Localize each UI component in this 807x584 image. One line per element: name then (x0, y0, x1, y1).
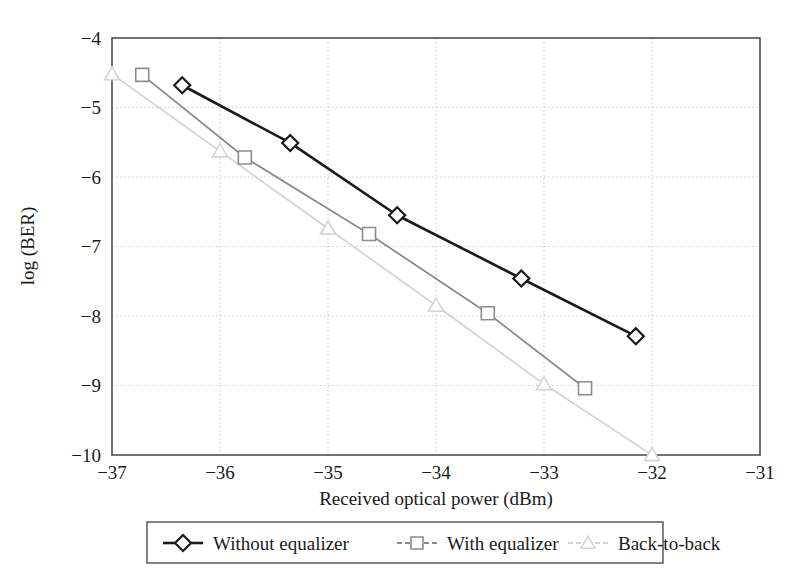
data-point-marker (136, 68, 149, 81)
y-axis-title: log (BER) (17, 207, 39, 286)
y-tick-label: −10 (71, 445, 101, 466)
chart-canvas: −37−36−35−34−33−32−31 −10−9−8−7−6−5−4 Re… (0, 0, 807, 584)
legend: Without equalizerWith equalizerBack-to-b… (147, 522, 721, 563)
y-tick-label: −9 (81, 375, 101, 396)
data-point-marker (363, 227, 376, 240)
x-tick-label: −35 (313, 462, 343, 483)
y-tick-labels: −10−9−8−7−6−5−4 (71, 28, 101, 466)
legend-label: Back-to-back (618, 533, 721, 554)
legend-label: With equalizer (447, 533, 559, 554)
x-axis-title: Received optical power (dBm) (319, 488, 553, 510)
y-tick-label: −7 (81, 236, 101, 257)
data-point-marker (579, 382, 592, 395)
legend-label: Without equalizer (213, 533, 350, 554)
data-point-marker (481, 307, 494, 320)
y-tick-label: −6 (81, 167, 101, 188)
y-tick-label: −5 (81, 97, 101, 118)
x-tick-label: −34 (421, 462, 451, 483)
x-tick-label: −37 (97, 462, 127, 483)
figure-container: −37−36−35−34−33−32−31 −10−9−8−7−6−5−4 Re… (0, 0, 807, 584)
data-point-marker (238, 151, 251, 164)
y-tick-label: −4 (81, 28, 102, 49)
x-tick-labels: −37−36−35−34−33−32−31 (97, 462, 775, 483)
y-tick-label: −8 (81, 306, 101, 327)
x-tick-label: −36 (205, 462, 235, 483)
x-tick-label: −33 (529, 462, 559, 483)
x-tick-label: −31 (745, 462, 775, 483)
square-icon (411, 537, 423, 549)
x-tick-label: −32 (637, 462, 667, 483)
